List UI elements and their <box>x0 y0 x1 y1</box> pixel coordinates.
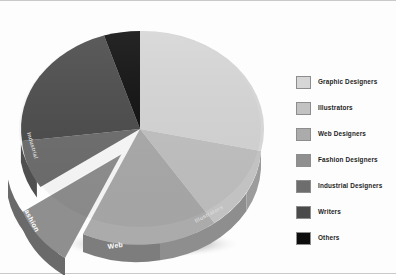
legend-item-fashion-designers: Fashion Designers <box>296 147 394 173</box>
legend-swatch-graphic-designers <box>296 76 311 89</box>
legend-item-others: Others <box>296 225 394 251</box>
legend-label-graphic-designers: Graphic Designers <box>318 79 377 85</box>
legend-item-industrial-designers: Industrial Designers <box>296 173 394 199</box>
legend-item-illustrators: Illustrators <box>296 95 394 121</box>
legend-label-others: Others <box>318 235 340 241</box>
legend-swatch-others <box>296 232 311 245</box>
pie-chart-area: Web Fashion Industrial Illustrators <box>0 1 280 275</box>
legend-label-writers: Writers <box>318 209 341 215</box>
legend-swatch-web-designers <box>296 128 311 141</box>
legend-swatch-industrial-designers <box>296 180 311 193</box>
legend-label-web-designers: Web Designers <box>318 131 366 137</box>
chart-legend: Graphic Designers Illustrators Web Desig… <box>296 69 394 251</box>
legend-swatch-fashion-designers <box>296 154 311 167</box>
legend-item-web-designers: Web Designers <box>296 121 394 147</box>
legend-item-graphic-designers: Graphic Designers <box>296 69 394 95</box>
legend-label-industrial-designers: Industrial Designers <box>318 183 382 189</box>
legend-item-writers: Writers <box>296 199 394 225</box>
legend-swatch-illustrators <box>296 102 311 115</box>
legend-swatch-writers <box>296 206 311 219</box>
legend-label-illustrators: Illustrators <box>318 105 353 111</box>
pie-chart-svg: Web Fashion Industrial Illustrators <box>0 1 280 275</box>
legend-label-fashion-designers: Fashion Designers <box>318 157 378 163</box>
